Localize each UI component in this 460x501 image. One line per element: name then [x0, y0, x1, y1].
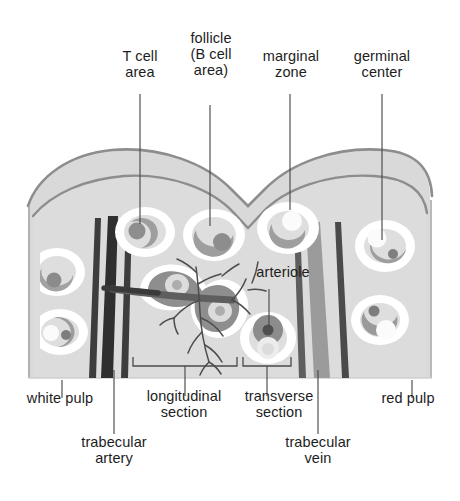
follicle-node: [115, 207, 175, 257]
label-germinal-center: germinal center: [342, 48, 422, 80]
follicle-node: [257, 202, 319, 254]
label-red-pulp: red pulp: [368, 390, 448, 406]
germinal-center: [368, 229, 387, 248]
germinal-center-light: [282, 211, 302, 231]
label-trabecular-artery: trabecular artery: [64, 434, 164, 466]
arteriole-lumen: [263, 325, 274, 336]
germinal-center: [376, 320, 396, 340]
germinal-center-dot: [388, 249, 398, 259]
germinal-center: [43, 325, 59, 341]
arteriole-lumen-core-lower: [215, 306, 225, 316]
follicle-node: [351, 295, 409, 345]
label-white-pulp: white pulp: [10, 390, 110, 406]
follicle-node: [355, 220, 415, 272]
follicle-cell-dot: [369, 306, 380, 317]
label-trabecular-vein: trabecular vein: [268, 434, 368, 466]
label-follicle-b-cell-area: follicle (B cell area): [174, 30, 248, 79]
arteriole-lumen-core-upper: [172, 280, 182, 290]
label-arteriole: arteriole: [240, 264, 326, 280]
follicle-pale-lobe-inner: [262, 343, 274, 355]
follicle-node: [183, 209, 245, 261]
label-t-cell-area: T cell area: [104, 48, 176, 80]
follicle-cell-cluster: [47, 273, 62, 288]
follicle-cell-dot: [61, 330, 71, 340]
transverse-section-follicle: [240, 312, 296, 364]
label-transverse-section: transverse section: [232, 388, 326, 420]
b-cell-cluster: [213, 233, 231, 251]
label-marginal-zone: marginal zone: [250, 48, 332, 80]
follicle-node: [32, 309, 88, 355]
label-longitudinal-section: longitudinal section: [132, 388, 236, 420]
t-cell-cluster: [129, 223, 146, 240]
diagram-canvas: T cell area follicle (B cell area) margi…: [0, 0, 460, 501]
